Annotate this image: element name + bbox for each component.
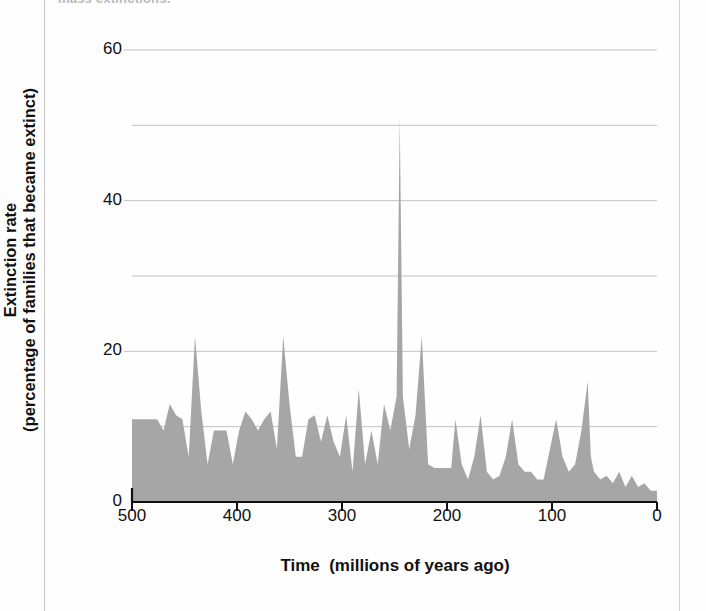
x-tick-label-300: 300 [307, 506, 377, 526]
x-tick-label-200: 200 [412, 506, 482, 526]
y-tick-label-60: 60 [80, 39, 122, 59]
extinction-rate-area [132, 118, 657, 502]
x-tick-label-500: 500 [97, 506, 167, 526]
y-tick-label-40: 40 [80, 190, 122, 210]
y-tick-label-20: 20 [80, 340, 122, 360]
extinction-rate-area-chart: Extinction rate (percentage of families … [0, 0, 706, 611]
scanned-page: mass extinctions. Extinction rate (perce… [0, 0, 706, 611]
x-tick-label-400: 400 [202, 506, 272, 526]
x-tick-label-100: 100 [517, 506, 587, 526]
x-tick-label-0: 0 [622, 506, 692, 526]
